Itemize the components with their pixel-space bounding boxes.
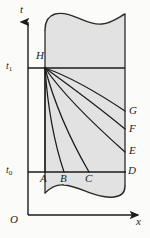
point-label-F: F [129, 123, 136, 134]
point-label-B: B [60, 173, 67, 184]
x-axis-label: x [136, 216, 141, 227]
origin-label: O [10, 214, 18, 225]
t-axis-label: t [20, 4, 23, 15]
point-label-H: H [36, 50, 44, 61]
math-figure: t x O t1 t0 H A B C D E F G [0, 0, 150, 238]
tick-label-t1-subscript: 1 [9, 65, 13, 73]
tick-label-t0: t0 [6, 165, 12, 177]
point-label-C: C [85, 173, 92, 184]
tick-label-t0-subscript: 0 [9, 169, 13, 177]
figure-canvas [0, 0, 150, 238]
point-label-D: D [128, 165, 136, 176]
point-label-E: E [129, 145, 136, 156]
point-label-G: G [129, 105, 137, 116]
apex-point-H [44, 67, 47, 70]
point-label-A: A [40, 173, 47, 184]
tick-label-t1: t1 [6, 61, 12, 73]
